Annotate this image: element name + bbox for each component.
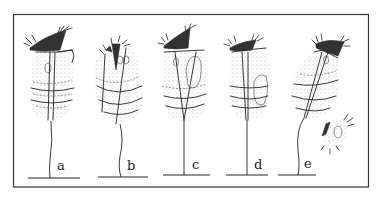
specimen-c: c [158,24,210,175]
specimen-d: d [224,34,270,175]
figure-plate: a b c [0,0,378,200]
panel-label-c: c [192,157,199,172]
specimen-a: a [24,26,80,178]
panel-label-b: b [127,158,135,173]
panel-label-d: d [254,157,262,172]
panel-label-e: e [304,156,312,171]
panel-label-a: a [57,158,65,173]
specimen-e: e [278,34,354,175]
specimen-b: b [94,36,148,177]
detached-zooid [321,114,354,154]
